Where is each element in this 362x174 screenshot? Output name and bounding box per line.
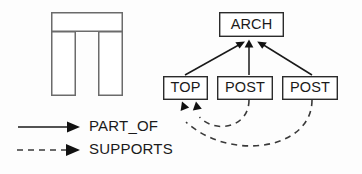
- node-post-right-label: POST: [290, 79, 330, 95]
- arch-relation-diagram: ARCH TOP POST POST PART_OF: [0, 0, 362, 174]
- legend-part-of-label: PART_OF: [89, 117, 158, 134]
- arrowhead-top-to-arch: [235, 42, 245, 49]
- node-top[interactable]: TOP: [164, 77, 208, 100]
- arrowhead-post-right-supports-top: [181, 102, 190, 112]
- diagram-canvas: ARCH TOP POST POST PART_OF: [0, 0, 362, 174]
- edge-post-left-supports-top: [200, 100, 250, 126]
- node-arch[interactable]: ARCH: [220, 13, 284, 37]
- edge-post-right-to-arch: [262, 44, 312, 75]
- arch-left-post: [52, 32, 76, 96]
- arrowhead-post-right-to-arch: [257, 42, 267, 49]
- edge-post-right-supports-top: [186, 100, 312, 146]
- legend-solid-arrowhead: [67, 122, 80, 133]
- arch-lintel: [52, 13, 123, 32]
- arch-right-post: [99, 32, 123, 96]
- arrowhead-post-left-to-arch: [245, 40, 254, 48]
- node-post-right[interactable]: POST: [283, 77, 338, 100]
- part-of-edges: [185, 40, 312, 76]
- legend-dashed-arrowhead: [66, 144, 80, 156]
- supports-edges: [181, 100, 312, 146]
- node-post-left-label: POST: [225, 79, 265, 95]
- arch-pictogram: [52, 13, 123, 96]
- edge-top-to-arch: [185, 44, 241, 75]
- legend-item-supports: SUPPORTS: [17, 140, 173, 157]
- legend-item-part-of: PART_OF: [18, 117, 158, 134]
- node-arch-label: ARCH: [231, 16, 273, 32]
- node-top-label: TOP: [171, 79, 201, 95]
- relation-legend: PART_OF SUPPORTS: [17, 117, 173, 157]
- graph-nodes: ARCH TOP POST POST: [164, 13, 338, 100]
- legend-supports-label: SUPPORTS: [89, 140, 173, 157]
- node-post-left[interactable]: POST: [218, 77, 273, 100]
- arrowhead-post-left-supports-top: [193, 102, 202, 111]
